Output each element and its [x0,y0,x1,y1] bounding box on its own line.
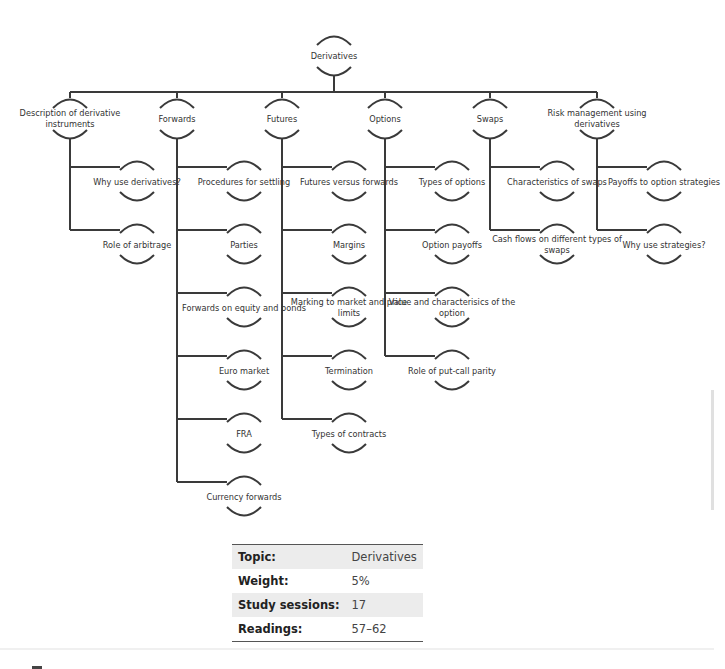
table-row: Readings: 57–62 [232,617,423,642]
child-node-top-arc [647,225,681,234]
child-node-top-arc [435,288,469,297]
child-node-top-arc [540,225,574,234]
child-node-top-arc [227,414,261,423]
child-node-bottom-arc [647,255,681,264]
child-node-bottom-arc [227,381,261,390]
page-edge-shadow [711,390,714,510]
child-node-top-arc [332,162,366,171]
topic-info-table: Topic: Derivatives Weight: 5% Study sess… [232,544,423,642]
child-node-top-arc [540,162,574,171]
child-node-top-arc [227,162,261,171]
concept-tree: DerivativesDescription of derivative ins… [0,0,714,540]
child-node-bottom-arc [227,318,261,327]
root-node-top-arc [317,37,351,46]
child-node-label: Role of put-call parity [382,366,522,377]
child-node-bottom-arc [332,318,366,327]
child-node-top-arc [332,351,366,360]
child-node-top-arc [227,225,261,234]
branch-node-bottom-arc [580,130,614,139]
child-node-top-arc [120,162,154,171]
child-node-top-arc [227,288,261,297]
table-row: Study sessions: 17 [232,593,423,617]
row-key: Readings: [232,617,346,642]
child-node-label: Payoffs to option strategies [594,177,725,188]
row-value: 57–62 [346,617,423,642]
child-node-top-arc [435,351,469,360]
branch-node-top-arc [265,100,299,109]
child-node-top-arc [120,225,154,234]
branch-node-top-arc [160,100,194,109]
child-node-bottom-arc [540,255,574,264]
child-node-bottom-arc [120,255,154,264]
branch-node-bottom-arc [53,130,87,139]
branch-node-label: Risk management using derivatives [527,108,667,130]
child-node-bottom-arc [435,381,469,390]
table-row: Weight: 5% [232,569,423,593]
row-key: Study sessions: [232,593,346,617]
root-node-label: Derivatives [264,51,404,62]
table-row: Topic: Derivatives [232,545,423,570]
branch-node-top-arc [368,100,402,109]
branch-node-top-arc [53,100,87,109]
root-node-bottom-arc [317,67,351,76]
branch-node-top-arc [580,100,614,109]
child-node-bottom-arc [435,318,469,327]
child-node-bottom-arc [332,381,366,390]
child-node-bottom-arc [332,192,366,201]
tree-connectors [0,0,714,540]
child-node-label: Value and characterisics of the option [382,297,522,319]
child-node-bottom-arc [332,255,366,264]
branch-node-bottom-arc [368,130,402,139]
row-key: Topic: [232,545,346,570]
child-node-top-arc [332,288,366,297]
row-value: Derivatives [346,545,423,570]
child-node-bottom-arc [647,192,681,201]
child-node-bottom-arc [120,192,154,201]
child-node-top-arc [435,225,469,234]
child-node-top-arc [332,225,366,234]
child-node-top-arc [647,162,681,171]
child-node-bottom-arc [435,255,469,264]
row-key: Weight: [232,569,346,593]
branch-node-bottom-arc [265,130,299,139]
child-node-label: Why use strategies? [594,240,725,251]
child-node-bottom-arc [435,192,469,201]
branch-node-top-arc [473,100,507,109]
page-fold-line [0,648,714,650]
child-node-bottom-arc [227,192,261,201]
branch-node-bottom-arc [473,130,507,139]
child-node-top-arc [435,162,469,171]
child-node-bottom-arc [540,192,574,201]
child-node-bottom-arc [227,255,261,264]
child-node-top-arc [227,351,261,360]
child-node-top-arc [227,477,261,486]
child-node-label: Types of contracts [279,429,419,440]
child-node-top-arc [332,414,366,423]
row-value: 5% [346,569,423,593]
child-node-bottom-arc [227,507,261,516]
branch-node-bottom-arc [160,130,194,139]
row-value: 17 [346,593,423,617]
child-node-bottom-arc [227,444,261,453]
child-node-label: Currency forwards [174,492,314,503]
child-node-bottom-arc [332,444,366,453]
